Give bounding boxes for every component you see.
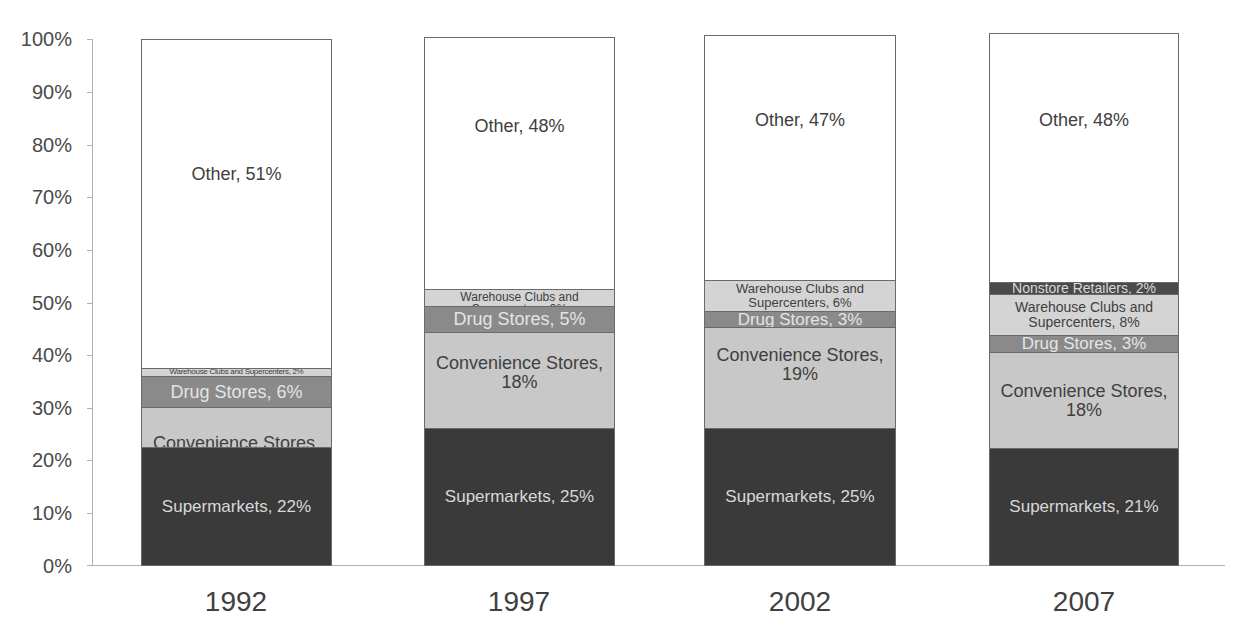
segment-label: Convenience Stores, 18% [436,354,603,392]
segment-drug-stores: Drug Stores, 6% [141,376,332,408]
segment-supermarkets: Supermarkets, 21% [989,448,1179,566]
segment-label: Supermarkets, 21% [1009,498,1158,516]
x-tick-label-2007: 2007 [1053,586,1115,618]
y-tick-label-0: 0% [0,555,72,578]
segment-label: Drug Stores, 5% [453,310,585,329]
segment-label: Other, 48% [1039,111,1129,130]
segment-convenience-stores: Convenience Stores, 18% [424,332,615,429]
segment-other: Other, 47% [704,35,896,281]
y-tick-label-60: 60% [0,239,72,262]
segment-drug-stores: Drug Stores, 5% [424,306,615,333]
y-tick-label-20: 20% [0,449,72,472]
segment-other: Other, 51% [141,39,332,369]
segment-convenience-stores: Convenience Stores, 19% [704,327,896,429]
y-axis-line [92,39,93,566]
segment-label: Warehouse Clubs and Supercenters, 8% [1015,300,1153,329]
bar-2002: Other, 47% Warehouse Clubs and Supercent… [704,35,896,566]
segment-warehouse-clubs: Warehouse Clubs and Supercenters, 3% [424,289,615,307]
y-tick-label-40: 40% [0,344,72,367]
segment-drug-stores: Drug Stores, 3% [989,335,1179,353]
segment-other: Other, 48% [989,33,1179,283]
segment-label: Other, 48% [474,117,564,136]
segment-label: Other, 51% [191,165,281,184]
segment-label: Other, 47% [755,111,845,130]
segment-label: Supermarkets, 22% [162,498,311,516]
segment-other: Other, 48% [424,37,615,290]
y-tick-label-90: 90% [0,81,72,104]
segment-label: Convenience Stores, 18% [1000,382,1167,420]
segment-drug-stores: Drug Stores, 3% [704,311,896,328]
x-tick-label-1997: 1997 [488,586,550,618]
segment-warehouse-clubs: Warehouse Clubs and Supercenters, 8% [989,294,1179,336]
bar-1997: Other, 48% Warehouse Clubs and Supercent… [424,37,615,566]
y-tick-label-10: 10% [0,502,72,525]
bar-2007: Other, 48% Nonstore Retailers, 2% Wareho… [989,33,1179,566]
segment-supermarkets: Supermarkets, 25% [424,428,615,566]
y-tick-label-70: 70% [0,186,72,209]
segment-label: Supermarkets, 25% [725,488,874,506]
segment-label: Drug Stores, 3% [738,311,863,329]
segment-label: Warehouse Clubs and Supercenters, 6% [736,282,864,309]
segment-warehouse-clubs: Warehouse Clubs and Supercenters, 6% [704,280,896,312]
segment-label: Drug Stores, 3% [1022,335,1147,353]
x-tick-label-2002: 2002 [769,586,831,618]
segment-label: Convenience Stores, 19% [716,346,883,384]
y-tick-label-50: 50% [0,292,72,315]
segment-supermarkets: Supermarkets, 22% [141,447,332,566]
x-tick-label-1992: 1992 [205,586,267,618]
bar-1992: Other, 51% Warehouse Clubs and Supercent… [141,39,332,566]
y-tick-label-30: 30% [0,397,72,420]
y-tick-label-80: 80% [0,134,72,157]
segment-convenience-stores: Convenience Stores, 18% [989,352,1179,449]
y-tick-label-100: 100% [0,28,72,51]
segment-supermarkets: Supermarkets, 25% [704,428,896,566]
segment-label: Supermarkets, 25% [445,488,594,506]
segment-label: Drug Stores, 6% [170,383,302,402]
stacked-bar-chart: 100% 90% 80% 70% 60% 50% 40% 30% 20% 10%… [0,0,1239,627]
